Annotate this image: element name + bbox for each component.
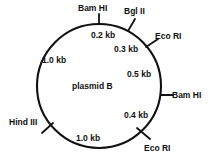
segment-label-0-3kb: 0.3 kb xyxy=(114,44,138,54)
segment-label-0-2kb: 0.2 kb xyxy=(91,30,115,40)
enzyme-label-eco-ri-upper-right: Eco RI xyxy=(155,31,181,41)
enzyme-label-eco-ri-lower-right: Eco RI xyxy=(144,143,170,153)
segment-label-1-0kb-left: 1.0 kb xyxy=(42,55,66,65)
plasmid-circle-graphic xyxy=(0,0,212,160)
enzyme-label-bam-hi-right: Bam HI xyxy=(172,90,201,100)
enzyme-label-bgl-ii: Bgl II xyxy=(124,6,145,16)
enzyme-label-hind-iii: Hind III xyxy=(9,117,37,127)
bgl-ii-tick xyxy=(128,19,135,31)
segment-label-0-5kb: 0.5 kb xyxy=(127,69,151,79)
segment-label-0-4kb: 0.4 kb xyxy=(124,110,148,120)
plasmid-map-diagram: Bam HI Bgl II Eco RI Bam HI Eco RI Hind … xyxy=(0,0,212,160)
plasmid-name-label: plasmid B xyxy=(72,81,113,91)
segment-label-1-0kb-bottom: 1.0 kb xyxy=(76,133,100,143)
enzyme-label-bam-hi-top: Bam HI xyxy=(78,3,107,13)
hind-iii-tick xyxy=(42,123,53,133)
